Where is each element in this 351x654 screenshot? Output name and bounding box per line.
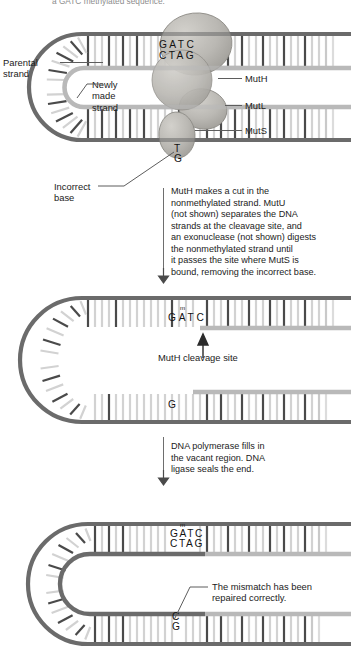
- caption2-arrow: [157, 470, 171, 486]
- label-mutl: MutL: [245, 100, 266, 111]
- figure-title-fragment: a GATC methylated sequence.: [52, 0, 165, 6]
- protein-complex: [152, 9, 235, 159]
- panel2-top-bases: GATC: [168, 313, 207, 323]
- caption1-rule: [163, 188, 164, 276]
- leader-incorrect-base: [98, 150, 176, 188]
- label-cleavage-site: MutH cleavage site: [158, 352, 238, 363]
- leader-new-strand: [75, 82, 105, 110]
- leader-muth: [218, 78, 242, 79]
- mismatch-repair-figure: a GATC methylated sequence.: [0, 0, 351, 654]
- leader-muts: [195, 130, 242, 131]
- label-muth: MutH: [245, 73, 267, 84]
- leader-parental-strand: [60, 62, 103, 63]
- caption1-arrow: [157, 268, 171, 284]
- label-incorrect-base: Incorrect base: [54, 181, 90, 204]
- leader-repaired: [174, 586, 210, 624]
- panel1-top-bases: GATC: [159, 40, 196, 50]
- caption-step-2: DNA polymerase fills in the vacant regio…: [171, 441, 349, 476]
- label-parental-strand: Parental strand: [3, 57, 38, 80]
- leader-mutl: [225, 105, 242, 106]
- label-repaired: The mismatch has been repaired correctly…: [212, 581, 312, 604]
- panel2-lone-base: G: [168, 400, 176, 410]
- panel3-bottom-bases: CTAG: [170, 539, 204, 549]
- caption-step-1: MutH makes a cut in the nonmethylated st…: [171, 186, 349, 278]
- panel3-methyl-mark: m: [180, 522, 185, 528]
- label-muts: MutS: [245, 125, 267, 136]
- panel1-bottom-bases: CTAG: [159, 51, 196, 61]
- panel2-methyl-mark: m: [180, 305, 185, 311]
